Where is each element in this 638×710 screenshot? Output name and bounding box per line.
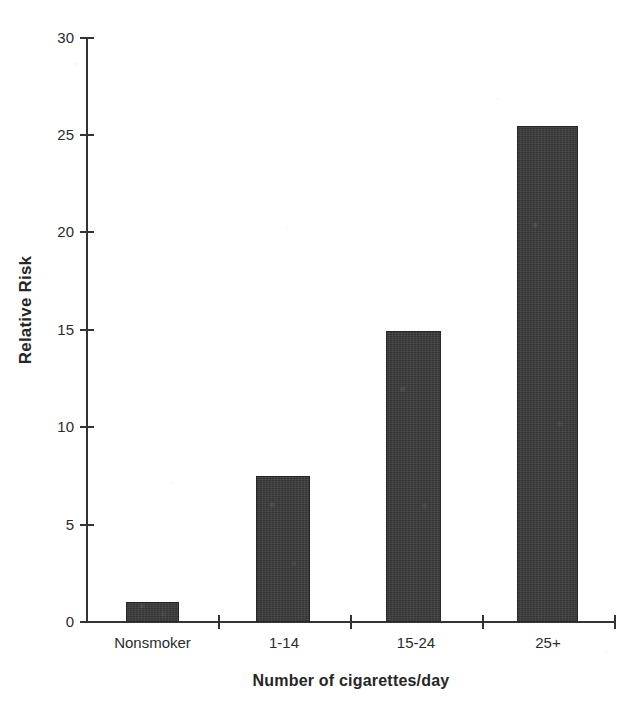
bar-15-24 — [386, 331, 441, 622]
y-axis-title: Relative Risk — [16, 210, 36, 410]
y-tick-5 — [80, 524, 94, 526]
y-tick-15 — [80, 329, 94, 331]
bar-chart-figure: Relative Risk 30 25 20 15 10 5 0 Nonsmok… — [0, 0, 638, 710]
x-tick-4 — [614, 615, 616, 629]
y-tick-25 — [80, 134, 94, 136]
y-tick-label-25: 25 — [40, 126, 74, 143]
bar-1-14 — [256, 476, 310, 622]
y-tick-10 — [80, 426, 94, 428]
y-tick-30 — [80, 37, 94, 39]
y-tick-label-0: 0 — [40, 613, 74, 630]
x-category-label-25-plus: 25+ — [482, 634, 614, 651]
y-tick-label-10: 10 — [40, 418, 74, 435]
x-category-label-nonsmoker: Nonsmoker — [86, 634, 219, 651]
x-axis-title: Number of cigarettes/day — [87, 672, 615, 690]
bar-25-plus — [517, 126, 578, 622]
x-tick-3 — [482, 615, 484, 629]
bar-nonsmoker — [126, 602, 179, 622]
y-tick-label-30: 30 — [40, 29, 74, 46]
y-tick-label-5: 5 — [40, 516, 74, 533]
x-tick-2 — [350, 615, 352, 629]
y-tick-label-20: 20 — [40, 223, 74, 240]
x-category-label-15-24: 15-24 — [350, 634, 482, 651]
y-tick-20 — [80, 231, 94, 233]
x-category-label-1-14: 1-14 — [218, 634, 350, 651]
x-tick-1 — [218, 615, 220, 629]
y-tick-label-15: 15 — [40, 321, 74, 338]
y-tick-0 — [80, 621, 94, 623]
